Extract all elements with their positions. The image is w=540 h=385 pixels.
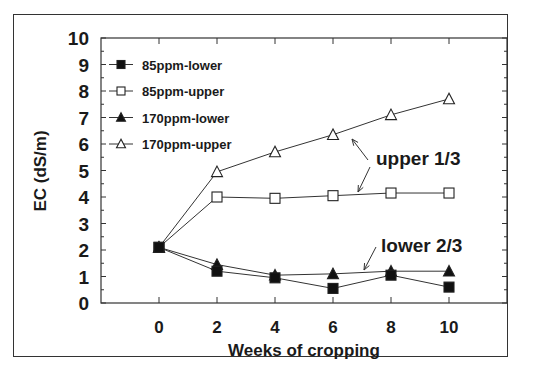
data-marker <box>386 188 396 198</box>
data-marker <box>270 273 280 283</box>
x-axis-label: Weeks of cropping <box>228 341 380 360</box>
data-marker <box>444 282 454 292</box>
legend-label: 170ppm-upper <box>142 137 232 152</box>
data-marker <box>212 266 222 276</box>
y-tick-label: 3 <box>78 214 89 235</box>
data-marker <box>154 242 164 252</box>
annotation-upper: upper 1/3 <box>352 139 460 192</box>
data-marker <box>117 61 125 69</box>
legend-label: 170ppm-lower <box>142 111 229 126</box>
y-tick-label: 2 <box>78 240 89 261</box>
x-tick-label: 4 <box>270 318 280 337</box>
data-marker <box>328 129 339 140</box>
y-axis-label: EC (dS/m) <box>31 130 50 211</box>
legend-label: 85ppm-lower <box>142 58 222 73</box>
data-marker <box>444 188 454 198</box>
x-tick-label: 10 <box>440 318 459 337</box>
data-marker <box>270 193 280 203</box>
arrow-line <box>358 167 370 192</box>
legend: 85ppm-lower85ppm-upper170ppm-lower170ppm… <box>109 58 232 153</box>
y-tick-label: 4 <box>78 187 89 208</box>
legend-label: 85ppm-upper <box>142 84 224 99</box>
y-tick-label: 6 <box>78 134 89 155</box>
data-marker <box>328 191 338 201</box>
data-marker <box>212 166 223 177</box>
axes: 0123456789100246810 <box>68 28 507 337</box>
plot-area-border <box>101 38 507 303</box>
data-marker <box>444 93 455 104</box>
y-tick-label: 10 <box>68 28 89 49</box>
annotation-lower: lower 2/3 <box>364 235 462 270</box>
data-marker <box>328 283 338 293</box>
y-tick-label: 1 <box>78 267 89 288</box>
y-tick-label: 0 <box>78 293 89 314</box>
annotation-upper-label: upper 1/3 <box>376 148 460 169</box>
data-marker <box>117 87 125 95</box>
x-tick-label: 8 <box>386 318 395 337</box>
annotation-lower-label: lower 2/3 <box>381 235 462 256</box>
legend-item-170ppm-lower: 170ppm-lower <box>109 111 229 126</box>
data-marker <box>386 270 396 280</box>
arrow-line <box>364 247 376 270</box>
legend-item-170ppm-upper: 170ppm-upper <box>109 137 232 152</box>
x-tick-label: 0 <box>154 318 163 337</box>
y-tick-label: 7 <box>78 108 89 129</box>
legend-item-85ppm-lower: 85ppm-lower <box>109 58 222 73</box>
x-tick-label: 2 <box>212 318 221 337</box>
x-tick-label: 6 <box>328 318 337 337</box>
annotations: upper 1/3lower 2/3 <box>352 139 462 270</box>
line-chart: 0123456789100246810 85ppm-lower85ppm-upp… <box>0 0 540 385</box>
y-tick-label: 9 <box>78 55 89 76</box>
legend-item-85ppm-upper: 85ppm-upper <box>109 84 224 99</box>
data-marker <box>386 109 397 120</box>
arrow-line <box>352 139 368 160</box>
y-tick-label: 5 <box>78 161 89 182</box>
data-marker <box>212 192 222 202</box>
data-marker <box>270 146 281 157</box>
y-tick-label: 8 <box>78 81 89 102</box>
